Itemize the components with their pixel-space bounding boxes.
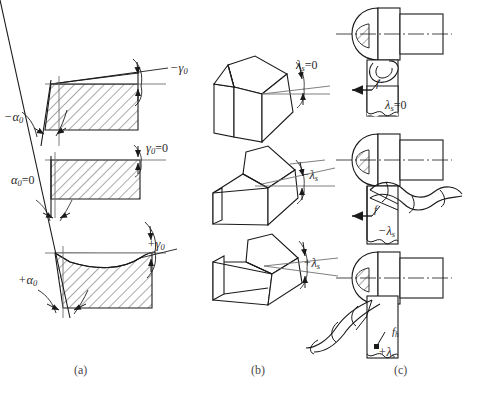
label-inclination-negative-b: −λs (301, 168, 318, 183)
label-inclination-zero-b: λs=0 (296, 58, 318, 73)
col-a-row3-tool-section (0, 0, 177, 318)
col-a-row2-tool-section (36, 145, 166, 221)
label-inclination-zero-c: λs=0 (385, 98, 407, 113)
label-clearance-positive: +α0 (18, 273, 37, 288)
label-rake-negative: −γ0 (170, 61, 188, 76)
label-inclination-negative-c: −λs (378, 224, 395, 239)
caption-a: (a) (74, 363, 87, 378)
col-b-row2-insert-isometric (213, 146, 335, 225)
label-feed-row2: f (374, 203, 377, 215)
label-inclination-positive-c: +λs (378, 345, 395, 360)
label-feed-row3: fh (392, 325, 399, 339)
col-c-row3-turning-operation (306, 252, 452, 358)
label-clearance-negative: −α0 (4, 110, 23, 125)
col-a-row1-tool-section (22, 59, 168, 146)
label-rake-zero: γ0=0 (146, 141, 168, 156)
caption-b: (b) (251, 363, 265, 378)
figure-canvas: −γ0 −α0 γ0=0 α0=0 +γ0 +α0 λs=0 −λs +λs f… (0, 0, 496, 393)
label-feed-row1: f (376, 77, 379, 89)
label-clearance-zero: α0=0 (11, 173, 35, 188)
caption-c: (c) (394, 363, 407, 378)
diagram-vector-layer (0, 0, 496, 393)
label-rake-positive: +γ0 (147, 237, 165, 252)
col-c-row2-turning-operation (336, 134, 462, 244)
label-inclination-positive-b: +λs (303, 256, 320, 271)
